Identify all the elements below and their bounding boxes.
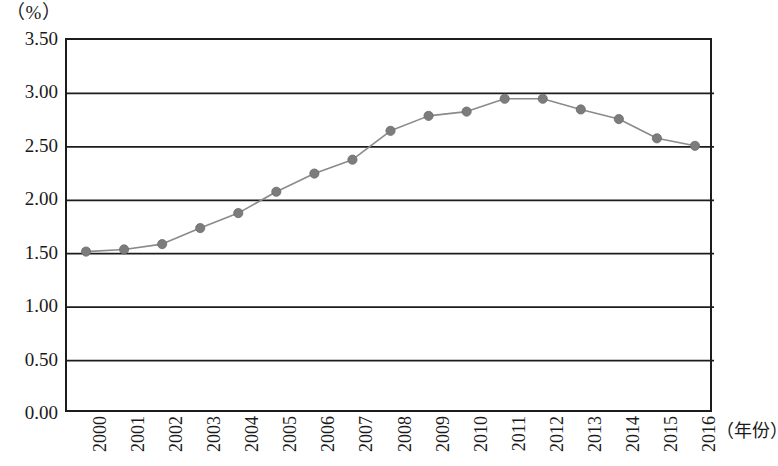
data-point [500,94,509,103]
y-axis-tick-label: 3.00 [0,82,58,101]
data-point [234,209,243,218]
x-axis-tick-label: 2003 [205,416,223,452]
x-axis-tick-label-text: 2002 [167,416,185,452]
data-point [272,187,281,196]
x-axis-tick-label: 2013 [586,416,604,452]
x-axis-tick-label-text: 2000 [91,416,109,452]
x-axis-tick-label-text: 2007 [357,416,375,452]
data-point [690,141,699,150]
data-point [196,223,205,232]
x-axis-tick-label: 2004 [243,416,261,452]
x-axis-title: （年份） [716,420,778,442]
x-axis-tick-label: 2008 [396,416,414,452]
data-point [310,169,319,178]
y-axis-tick-label: 3.50 [0,29,58,48]
data-point [614,114,623,123]
data-point [538,94,547,103]
x-axis-tick-label: 2014 [624,416,642,452]
data-point [119,245,128,254]
plot-canvas [67,40,714,414]
y-axis-tick-label: 1.50 [0,243,58,262]
x-axis-tick-label-text: 2008 [396,416,414,452]
x-axis-tick-label-text: 2011 [510,416,528,451]
data-markers [81,94,699,256]
x-axis-tick-label-text: 2015 [662,416,680,452]
y-axis-tick-labels: 3.503.002.502.001.501.000.500.00 [0,0,58,466]
x-axis-tick-label-text: 2012 [548,416,566,452]
data-point [424,111,433,120]
y-axis-tick-label: 1.00 [0,296,58,315]
x-axis-tick-labels: 2000200120022003200420052006200720082009… [65,412,712,466]
y-axis-tick-label: 0.50 [0,350,58,369]
y-axis-tick-label: 2.00 [0,189,58,208]
data-point [462,107,471,116]
x-axis-tick-label: 2010 [472,416,490,452]
x-axis-tick-label: 2009 [434,416,452,452]
y-axis-tick-label: 2.50 [0,136,58,155]
data-point [158,240,167,249]
x-axis-tick-label: 2001 [129,416,147,452]
x-axis-tick-label-text: 2009 [434,416,452,452]
x-axis-tick-label: 2005 [281,416,299,452]
data-point [576,105,585,114]
data-line [86,99,695,252]
x-axis-tick-label: 2011 [510,416,528,451]
data-point [348,155,357,164]
x-axis-tick-label: 2002 [167,416,185,452]
x-axis-tick-label-text: 2014 [624,416,642,452]
plot-area [65,38,712,412]
data-point [386,126,395,135]
x-axis-tick-label-text: 2001 [129,416,147,452]
x-axis-tick-label: 2012 [548,416,566,452]
x-axis-tick-label-text: 2004 [243,416,261,452]
data-point [652,134,661,143]
x-axis-tick-label-text: 2010 [472,416,490,452]
x-axis-tick-label-text: 2005 [281,416,299,452]
x-axis-tick-label-text: 2013 [586,416,604,452]
y-axis-tick-label: 0.00 [0,403,58,422]
x-axis-tick-label-text: 2003 [205,416,223,452]
data-point [81,247,90,256]
x-axis-tick-label: 2006 [319,416,337,452]
x-axis-tick-label: 2000 [91,416,109,452]
line-chart: （%） 3.503.002.502.001.501.000.500.00 200… [0,0,778,466]
x-axis-tick-label-text: 2006 [319,416,337,452]
x-axis-tick-label: 2015 [662,416,680,452]
x-axis-tick-label: 2007 [357,416,375,452]
